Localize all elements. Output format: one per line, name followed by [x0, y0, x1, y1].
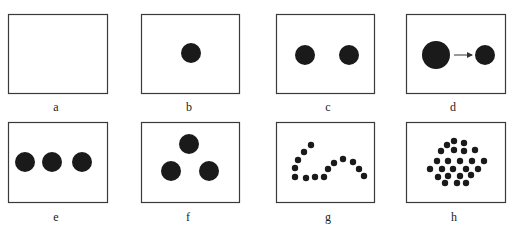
dot [301, 149, 307, 155]
dot [457, 158, 463, 164]
dot [457, 173, 463, 179]
dot [308, 142, 314, 148]
dot [295, 157, 301, 163]
dot [435, 174, 441, 180]
dot [350, 159, 356, 165]
panel-label-b: b [186, 100, 192, 115]
dot [427, 166, 433, 172]
panel-label-c: c [325, 100, 330, 115]
dot [454, 180, 460, 186]
panel-g [277, 123, 375, 203]
dot [439, 166, 445, 172]
panel-frame [277, 15, 375, 94]
dot [463, 166, 469, 172]
dot [444, 142, 450, 148]
dot [461, 148, 467, 154]
dot [303, 175, 309, 181]
dot [469, 158, 475, 164]
panel-label-g: g [325, 210, 331, 225]
dot [325, 166, 331, 172]
dot [422, 41, 450, 69]
dot [450, 166, 456, 172]
panel-label-h: h [451, 210, 457, 225]
dot [292, 174, 298, 180]
panel-e [9, 123, 108, 203]
dot [461, 140, 467, 146]
dot [463, 180, 469, 186]
dot [361, 173, 367, 179]
panel-label-d: d [450, 100, 456, 115]
panel-frame [277, 123, 375, 203]
panel-label-a: a [53, 100, 58, 115]
panel-label-f: f [186, 210, 190, 225]
dot [181, 43, 201, 63]
dot [295, 45, 315, 65]
panel-frame [9, 15, 108, 94]
dot [468, 172, 474, 178]
dot [442, 180, 448, 186]
panel-a [9, 15, 108, 94]
dot [161, 161, 181, 181]
dot [340, 156, 346, 162]
dot [72, 152, 92, 172]
panel-h [407, 123, 506, 203]
dot [331, 160, 337, 166]
dot [199, 161, 219, 181]
panel-frame [407, 123, 506, 203]
figure-canvas [0, 0, 513, 235]
dot [312, 174, 318, 180]
dot [451, 138, 457, 144]
dot [15, 152, 35, 172]
dot [472, 147, 478, 153]
panel-label-e: e [53, 210, 58, 225]
dot [179, 134, 199, 154]
dot [475, 45, 495, 65]
panel-d [407, 15, 506, 94]
dot [434, 158, 440, 164]
dot [481, 158, 487, 164]
panel-b [142, 15, 240, 94]
dot [475, 166, 481, 172]
dot [438, 148, 444, 154]
dot [451, 147, 457, 153]
dot [292, 165, 298, 171]
dot [356, 166, 362, 172]
dot [445, 173, 451, 179]
dot [42, 152, 62, 172]
dot [339, 45, 359, 65]
dot [445, 158, 451, 164]
panel-f [142, 123, 240, 203]
dot [321, 174, 327, 180]
panel-c [277, 15, 375, 94]
